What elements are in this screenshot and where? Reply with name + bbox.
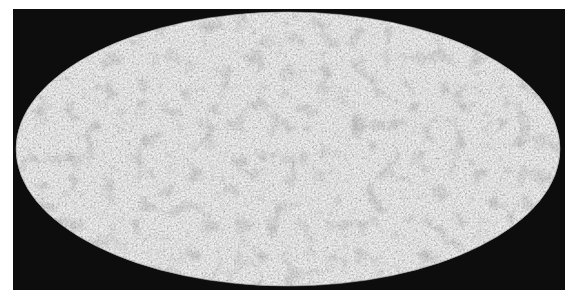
map-ellipse — [0, 0, 576, 300]
sky-map — [0, 0, 576, 300]
